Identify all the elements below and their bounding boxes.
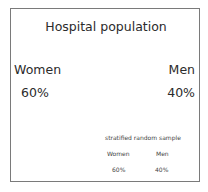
- hospital-population-box: Hospital population Women Men 60% 40% st…: [10, 8, 200, 182]
- sample-men-label: Men: [156, 151, 169, 157]
- sample-title: stratified random sample: [105, 135, 181, 141]
- sample-women-percent: 60%: [112, 167, 125, 173]
- population-title: Hospital population: [11, 21, 201, 34]
- population-women-label: Women: [14, 64, 61, 77]
- population-men-label: Men: [169, 64, 195, 77]
- sample-women-label: Women: [107, 151, 130, 157]
- population-women-percent: 60%: [21, 87, 49, 100]
- population-men-percent: 40%: [167, 87, 195, 100]
- sample-men-percent: 40%: [155, 167, 168, 173]
